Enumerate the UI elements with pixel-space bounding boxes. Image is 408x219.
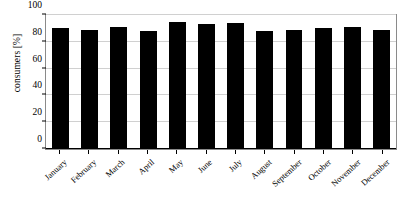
- bar-slot: [221, 15, 250, 149]
- bar-november[interactable]: [344, 27, 361, 149]
- bar-slot: [104, 15, 133, 149]
- x-axis-label-march: March: [104, 157, 127, 179]
- x-tick-mark-august: [264, 150, 265, 154]
- x-tick-mark-november: [352, 150, 353, 154]
- bar-may[interactable]: [169, 22, 186, 149]
- bar-march[interactable]: [110, 27, 127, 149]
- bar-october[interactable]: [315, 28, 332, 149]
- bar-december[interactable]: [373, 30, 390, 149]
- x-tick-mark-april: [147, 150, 148, 154]
- bar-april[interactable]: [140, 31, 157, 149]
- bar-slot: [163, 15, 192, 149]
- bar-slot: [250, 15, 279, 149]
- x-axis-labels: JanuaryFebruaryMarchAprilMayJuneJulyAugu…: [45, 155, 397, 215]
- bar-july[interactable]: [227, 23, 244, 149]
- bar-slot: [279, 15, 308, 149]
- y-tick-label-0: 0: [37, 134, 42, 144]
- bar-september[interactable]: [286, 30, 303, 149]
- x-label-slot: December: [368, 155, 397, 215]
- x-label-slot: July: [221, 155, 250, 215]
- x-tick-mark-january: [59, 150, 60, 154]
- x-tick-mark-september: [294, 150, 295, 154]
- bar-chart: consumers [%] 020406080100 JanuaryFebrua…: [0, 0, 408, 219]
- bar-slot: [75, 15, 104, 149]
- bars-container: [46, 15, 396, 149]
- x-label-slot: February: [74, 155, 103, 215]
- bar-slot: [192, 15, 221, 149]
- x-label-slot: May: [162, 155, 191, 215]
- x-label-slot: January: [45, 155, 74, 215]
- x-tick-mark-october: [323, 150, 324, 154]
- x-label-slot: September: [280, 155, 309, 215]
- y-axis-title: consumers [%]: [12, 13, 28, 113]
- x-axis-label-july: July: [226, 157, 243, 174]
- x-tick-mark-december: [382, 150, 383, 154]
- x-label-slot: March: [104, 155, 133, 215]
- y-tick-label-40: 40: [33, 80, 43, 90]
- bar-february[interactable]: [81, 30, 98, 149]
- y-tick-label-20: 20: [33, 107, 43, 117]
- bar-january[interactable]: [52, 28, 69, 149]
- y-tick-label-60: 60: [33, 54, 43, 64]
- x-tick-mark-july: [235, 150, 236, 154]
- y-tick-label-100: 100: [28, 0, 42, 10]
- bar-august[interactable]: [256, 31, 273, 149]
- bar-slot: [46, 15, 75, 149]
- bar-slot: [338, 15, 367, 149]
- x-tick-mark-may: [176, 150, 177, 154]
- x-axis-label-june: June: [196, 157, 214, 175]
- x-axis-label-august: August: [249, 157, 274, 181]
- x-axis-label-april: April: [136, 157, 156, 176]
- bar-june[interactable]: [198, 24, 215, 149]
- plot-area: 020406080100: [45, 14, 397, 150]
- x-label-slot: April: [133, 155, 162, 215]
- x-axis-label-may: May: [167, 157, 185, 175]
- y-tick-label-80: 80: [33, 27, 43, 37]
- x-axis-label-january: January: [42, 157, 68, 182]
- x-tick-mark-march: [118, 150, 119, 154]
- bar-slot: [134, 15, 163, 149]
- bar-slot: [367, 15, 396, 149]
- x-tick-mark-june: [206, 150, 207, 154]
- x-label-slot: June: [192, 155, 221, 215]
- bar-slot: [309, 15, 338, 149]
- x-tick-mark-february: [88, 150, 89, 154]
- x-axis-label-october: October: [305, 157, 332, 183]
